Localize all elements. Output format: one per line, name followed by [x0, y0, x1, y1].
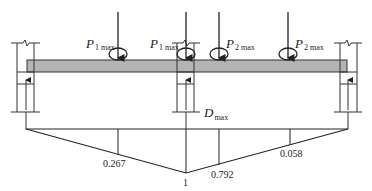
left-column: [11, 40, 40, 129]
ordinate-value-1: 0.267: [103, 158, 126, 169]
right-column: [334, 40, 362, 129]
load-label-4: P2 max: [294, 36, 324, 52]
ordinate-value-3: 0.058: [280, 148, 303, 159]
load-label-1: P1 max: [85, 36, 115, 52]
apex-value: 1: [183, 177, 188, 188]
ordinate-value-2: 0.792: [211, 169, 234, 180]
crane-beam-influence-diagram: P1 max P1 max P2 max P2 max Dmax 0.267 1…: [0, 0, 372, 191]
load-label-3: P2 max: [225, 36, 255, 52]
wheel-load-1: [109, 12, 127, 60]
wheel-load-2: [177, 12, 195, 60]
load-label-2: P1 max: [149, 36, 179, 52]
reaction-label: Dmax: [203, 105, 228, 122]
crane-beam: [27, 60, 347, 72]
